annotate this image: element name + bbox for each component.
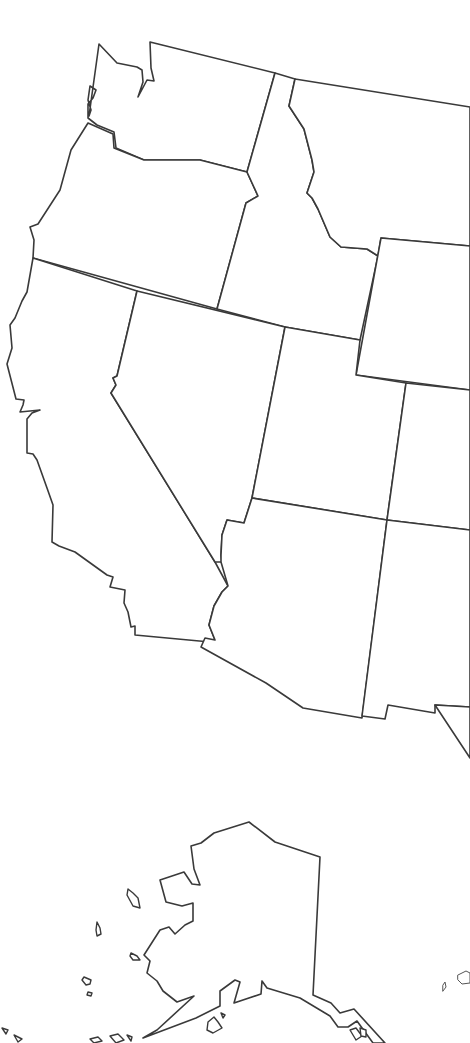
region-pribilof-island-3	[87, 992, 92, 996]
region-kodiak-island-2	[221, 1013, 225, 1018]
region-pribilof-island-2	[82, 977, 91, 985]
region-pribilof-island-1	[130, 953, 140, 960]
region-hawaii-island-2	[458, 971, 470, 984]
region-aleutian-3	[90, 1037, 102, 1043]
hawaii-islands	[443, 971, 470, 991]
region-texas-edge	[435, 705, 470, 758]
region-nunivak-island	[96, 922, 101, 936]
region-arizona	[201, 498, 387, 718]
outline-map	[0, 0, 470, 1043]
region-st-lawrence-island	[127, 889, 140, 908]
region-alaska	[143, 822, 385, 1043]
state-regions	[7, 42, 470, 1043]
region-aleutian-4	[110, 1034, 124, 1043]
region-aleutian-2	[14, 1035, 22, 1042]
region-southeast-alaska-island-2	[360, 1028, 366, 1037]
region-aleutian-5	[127, 1035, 132, 1041]
region-aleutian-1	[2, 1028, 8, 1034]
region-hawaii-island-1	[443, 982, 446, 991]
region-kodiak-island	[207, 1017, 222, 1033]
